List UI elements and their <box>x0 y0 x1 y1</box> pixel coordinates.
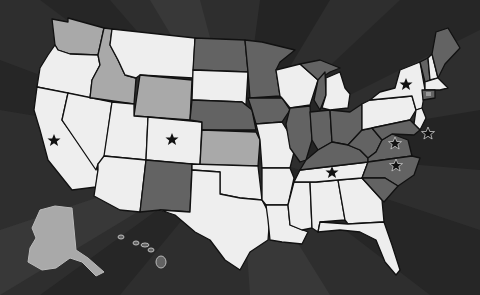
state-montana[interactable] <box>110 29 195 78</box>
state-iowa[interactable] <box>248 98 290 124</box>
state-rhode-island[interactable] <box>426 92 431 96</box>
state-wyoming[interactable] <box>134 75 192 120</box>
state-mississippi[interactable] <box>288 182 312 230</box>
state-new-mexico[interactable] <box>140 160 192 212</box>
state-north-dakota[interactable] <box>193 38 248 72</box>
state-kansas[interactable] <box>200 130 260 166</box>
map-svg <box>0 0 480 295</box>
us-map <box>0 0 480 295</box>
